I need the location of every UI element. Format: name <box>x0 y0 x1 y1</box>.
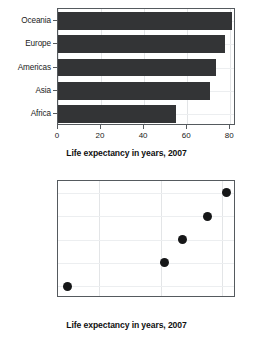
dot-chart-figure: OceaniaEuropeAmericasAsiaAfrica 607080 L… <box>0 165 253 339</box>
y-tick-label-africa: Africa <box>31 109 51 118</box>
y-tick-label-oceania: Oceania <box>21 15 51 24</box>
y-tick-label-europe: Europe <box>25 39 51 48</box>
gridline-vertical <box>222 181 223 296</box>
dot-oceania <box>222 188 231 197</box>
x-tick-label: 0 <box>55 131 59 140</box>
x-tick-label: 20 <box>96 131 105 140</box>
bar-chart-figure: OceaniaEuropeAmericasAsiaAfrica 02040608… <box>0 0 253 165</box>
bar-europe <box>58 35 225 53</box>
dot-europe <box>203 212 212 221</box>
x-tick-mark <box>186 125 187 129</box>
bar-africa <box>58 105 176 123</box>
dot-asia <box>160 258 169 267</box>
x-tick-label: 80 <box>225 131 234 140</box>
y-tick-mark <box>53 113 57 114</box>
y-tick-label-asia: Asia <box>35 85 51 94</box>
gridline-horizontal <box>58 240 234 241</box>
gridline-vertical <box>161 181 162 296</box>
dot-plot-area <box>57 180 235 297</box>
gridline-horizontal <box>58 193 234 194</box>
x-tick-label: 40 <box>139 131 148 140</box>
bar-asia <box>58 82 210 100</box>
x-tick-mark <box>100 125 101 129</box>
y-tick-mark <box>53 20 57 21</box>
dot-africa <box>63 282 72 291</box>
bar-oceania <box>58 12 232 30</box>
y-tick-mark <box>53 90 57 91</box>
gridline-vertical <box>99 181 100 296</box>
bar-x-axis-title: Life expectancy in years, 2007 <box>0 148 253 158</box>
y-tick-mark <box>53 67 57 68</box>
x-tick-label: 60 <box>182 131 191 140</box>
gridline-horizontal <box>58 263 234 264</box>
bar-plot-area <box>57 8 235 125</box>
x-tick-mark <box>229 125 230 129</box>
x-tick-mark <box>57 125 58 129</box>
x-tick-mark <box>143 125 144 129</box>
bar-americas <box>58 59 216 77</box>
y-tick-label-americas: Americas <box>18 62 51 71</box>
dot-x-axis-title: Life expectancy in years, 2007 <box>0 320 253 330</box>
gridline-horizontal <box>58 286 234 287</box>
dot-americas <box>178 235 187 244</box>
y-tick-mark <box>53 43 57 44</box>
